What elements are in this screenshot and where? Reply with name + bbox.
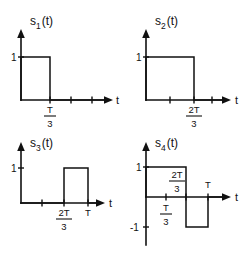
amplitude-label-s1-one: 1 (11, 52, 17, 63)
svg-text:T: T (163, 202, 169, 213)
waveform-s3 (21, 168, 98, 203)
svg-text:3: 3 (163, 216, 168, 227)
x-tick-label-s3-2t3: 2T 3 (56, 207, 72, 232)
plot-title-s4: s4(t) (155, 136, 178, 153)
x-axis-label-s2: t (235, 94, 238, 106)
x-tick-label-s4-t: T (205, 179, 211, 190)
plot-panel-s4: s4(t) 1 -1 t T 3 2T 3 (126, 135, 252, 270)
x-axis-label-s4: t (235, 191, 238, 203)
amplitude-label-s4-neg-one: -1 (130, 222, 139, 233)
signal-waveform-figure: s1(t) 1 t T 3 (0, 0, 252, 270)
plot-title-s3: s3(t) (30, 136, 53, 153)
svg-text:3: 3 (47, 118, 52, 129)
x-tick-label-s4-t3: T 3 (160, 202, 172, 227)
plot-panel-s1: s1(t) 1 t T 3 (0, 0, 126, 135)
plot-panel-s2: s2(t) 1 t 2T 3 (126, 0, 252, 135)
plot-title-s1: s1(t) (30, 14, 53, 31)
x-axis-label-s3: t (109, 197, 112, 209)
plot-panel-s3: s3(t) 1 t 2T 3 T (0, 135, 126, 270)
svg-text:T: T (47, 104, 53, 115)
amplitude-label-s4-pos-one: 1 (136, 162, 142, 173)
x-tick-label-s4-2t3: 2T 3 (169, 169, 185, 194)
svg-text:3: 3 (191, 118, 196, 129)
svg-text:2T: 2T (58, 207, 69, 218)
svg-text:3: 3 (61, 221, 66, 232)
x-tick-label-s3-t: T (85, 207, 91, 218)
svg-text:3: 3 (174, 183, 179, 194)
amplitude-label-s2-one: 1 (136, 52, 142, 63)
x-axis-label-s1: t (116, 94, 119, 106)
amplitude-label-s3-one: 1 (11, 163, 17, 174)
svg-text:2T: 2T (171, 169, 182, 180)
svg-text:2T: 2T (188, 104, 199, 115)
y-axis-s3 (17, 142, 25, 203)
plot-title-s2: s2(t) (155, 14, 178, 31)
x-tick-label-s1-t3: T 3 (44, 104, 56, 129)
waveform-s1 (21, 57, 106, 100)
x-tick-label-s2-2t3: 2T 3 (186, 104, 202, 129)
waveform-s2 (146, 57, 224, 100)
